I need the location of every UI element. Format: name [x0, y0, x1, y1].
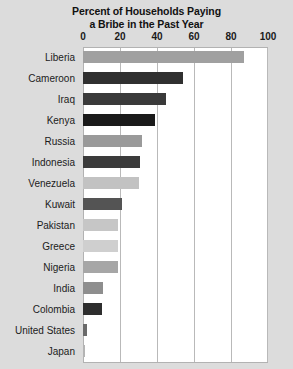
y-tick-label: United States [15, 320, 79, 341]
y-tick-label: Liberia [45, 47, 79, 68]
bars-container [83, 47, 268, 363]
x-tick-label: 20 [114, 31, 125, 43]
bar-row [83, 110, 268, 131]
bar [83, 72, 183, 84]
x-tick-label: 40 [151, 31, 162, 43]
bar [83, 324, 87, 336]
bar [83, 345, 85, 357]
x-tick-label: 0 [80, 31, 86, 43]
bar [83, 156, 140, 168]
bar [83, 303, 102, 315]
bar-row [83, 152, 268, 173]
chart-title-line-1: Percent of Households Paying [0, 5, 293, 18]
chart-title-line-2: a Bribe in the Past Year [0, 18, 293, 31]
bar [83, 93, 166, 105]
y-tick-label: Pakistan [37, 215, 79, 236]
bar-row [83, 131, 268, 152]
y-tick-label: Venezuela [28, 173, 79, 194]
bar [83, 282, 103, 294]
bar-row [83, 278, 268, 299]
y-tick-label: Russia [44, 131, 79, 152]
bar-row [83, 215, 268, 236]
y-tick-label: Japan [48, 341, 79, 362]
x-tick-label: 80 [225, 31, 236, 43]
bar-row [83, 47, 268, 68]
bar [83, 261, 118, 273]
y-tick-label: Cameroon [28, 68, 79, 89]
bar [83, 198, 122, 210]
y-tick-label: India [53, 278, 79, 299]
y-axis-category-labels: LiberiaCameroonIraqKenyaRussiaIndonesiaV… [0, 47, 79, 363]
x-tick-label: 60 [188, 31, 199, 43]
bar-row [83, 236, 268, 257]
bar-row [83, 320, 268, 341]
y-tick-label: Greece [42, 236, 79, 257]
bar-row [83, 257, 268, 278]
bar-row [83, 68, 268, 89]
bar [83, 135, 142, 147]
bar [83, 240, 118, 252]
bar-row [83, 89, 268, 110]
y-tick-label: Kuwait [45, 194, 79, 215]
x-axis-tick-labels: 020406080100 [83, 31, 268, 45]
bar-row [83, 194, 268, 215]
bar-row [83, 299, 268, 320]
bar [83, 114, 155, 126]
chart-title: Percent of Households Paying a Bribe in … [0, 5, 293, 31]
y-tick-label: Nigeria [43, 257, 79, 278]
y-tick-label: Iraq [58, 89, 79, 110]
x-tick-label: 100 [260, 31, 277, 43]
bar-chart: Percent of Households Paying a Bribe in … [0, 0, 293, 369]
y-tick-label: Indonesia [32, 152, 79, 173]
bar [83, 219, 118, 231]
y-tick-label: Kenya [47, 110, 79, 131]
bar-row [83, 173, 268, 194]
bar-row [83, 341, 268, 362]
bar [83, 177, 139, 189]
y-tick-label: Colombia [33, 299, 79, 320]
bar [83, 51, 244, 63]
